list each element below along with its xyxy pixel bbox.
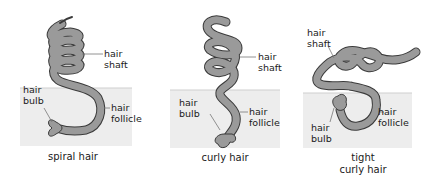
label-hair-shaft: hair shaft [307,27,331,49]
label-hair-shaft: hair shaft [104,48,128,70]
caption-spiral-hair: spiral hair [28,151,118,163]
label-hair-bulb: hair bulb [179,97,200,119]
caption-curly-hair: curly hair [180,152,270,164]
label-hair-shaft: hair shaft [258,51,282,73]
panel-spiral-hair [20,17,132,146]
label-hair-bulb: hair bulb [311,122,332,144]
label-hair-follicle: hair follicle [378,106,409,128]
label-hair-follicle: hair follicle [249,106,280,128]
label-hair-bulb: hair bulb [23,84,44,106]
panel-curly-hair [170,20,280,148]
label-hair-follicle: hair follicle [111,102,142,124]
caption-tight-curly-hair: tight curly hair [318,152,408,176]
